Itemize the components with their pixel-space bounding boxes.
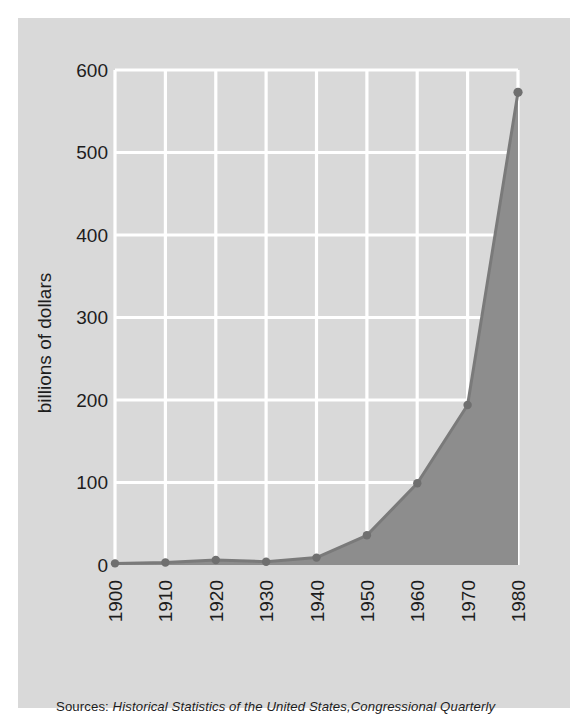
x-axis-tick-labels: 1900 1910 1920 1930 1940 1950 1960 1970 … <box>105 580 529 622</box>
data-point-1920 <box>212 556 220 564</box>
data-point-1970 <box>463 401 471 409</box>
x-tick-label-1910: 1910 <box>155 580 176 622</box>
y-tick-label-600: 600 <box>76 60 108 81</box>
data-point-1930 <box>262 558 270 566</box>
x-tick-label-1930: 1930 <box>256 580 277 622</box>
x-tick-label-1920: 1920 <box>206 580 227 622</box>
y-tick-label-200: 200 <box>76 390 108 411</box>
source-note: Sources: Historical Statistics of the Un… <box>56 699 576 714</box>
data-point-1940 <box>312 553 320 561</box>
data-point-1950 <box>363 531 371 539</box>
y-axis-title: billions of dollars <box>34 273 55 413</box>
x-tick-label-1900: 1900 <box>105 580 126 622</box>
source-title-two: Congressional Quarterly <box>351 699 496 714</box>
figure-container: billions of dollars 600 500 400 300 200 … <box>0 0 588 727</box>
data-point-1980 <box>513 88 522 97</box>
plot-area <box>111 70 523 568</box>
x-tick-label-1950: 1950 <box>357 580 378 622</box>
y-tick-label-400: 400 <box>76 225 108 246</box>
y-tick-label-500: 500 <box>76 142 108 163</box>
x-tick-label-1980: 1980 <box>508 580 529 622</box>
x-tick-label-1940: 1940 <box>307 580 328 622</box>
source-prefix: Sources: <box>56 699 109 714</box>
y-tick-label-100: 100 <box>76 472 108 493</box>
source-title-one: Historical Statistics of the United Stat… <box>113 699 347 714</box>
line-area-chart: billions of dollars 600 500 400 300 200 … <box>18 18 570 708</box>
chart-panel: billions of dollars 600 500 400 300 200 … <box>18 18 570 708</box>
y-axis-tick-labels: 600 500 400 300 200 100 0 <box>76 60 108 576</box>
data-point-1900 <box>111 559 119 567</box>
y-tick-label-0: 0 <box>97 555 108 576</box>
y-tick-label-300: 300 <box>76 307 108 328</box>
data-point-1910 <box>161 558 169 566</box>
x-tick-label-1960: 1960 <box>407 580 428 622</box>
x-tick-label-1970: 1970 <box>458 580 479 622</box>
data-point-1960 <box>413 479 421 487</box>
